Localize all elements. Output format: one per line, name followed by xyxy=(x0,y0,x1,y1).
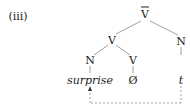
leaf-null: Ø xyxy=(128,75,137,86)
node-v-right: V xyxy=(129,55,137,66)
leaf-surprise: surprise xyxy=(67,75,113,86)
arrow-up-icon xyxy=(88,86,92,91)
leaf-trace: t xyxy=(179,75,183,86)
node-v: V xyxy=(108,35,116,46)
node-n-left: N xyxy=(85,55,95,66)
node-v-bar: V xyxy=(141,9,149,20)
node-n-right: N xyxy=(176,36,186,47)
movement-dashed-line xyxy=(90,86,181,103)
